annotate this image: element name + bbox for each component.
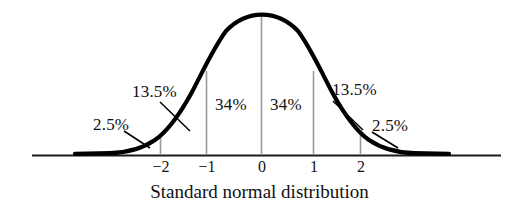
label-right-outer-percent: 13.5% (332, 80, 377, 100)
tick-label-minus-2: −2 (146, 158, 176, 176)
tick-label-zero: 0 (247, 158, 277, 176)
normal-distribution-figure: 2.5% 13.5% 34% 34% 13.5% 2.5% −2 −1 0 1 … (0, 0, 519, 208)
label-right-tail-percent: 2.5% (372, 116, 408, 136)
tick-label-minus-1: −1 (192, 158, 222, 176)
label-right-inner-percent: 34% (270, 95, 302, 115)
tick-label-plus-1: 1 (299, 158, 329, 176)
distribution-plot (0, 0, 519, 208)
label-left-outer-percent: 13.5% (132, 82, 177, 102)
label-left-inner-percent: 34% (215, 95, 247, 115)
leader-line-right-outer (333, 101, 363, 130)
tick-label-plus-2: 2 (346, 158, 376, 176)
label-left-tail-percent: 2.5% (93, 115, 129, 135)
figure-caption: Standard normal distribution (0, 181, 519, 203)
